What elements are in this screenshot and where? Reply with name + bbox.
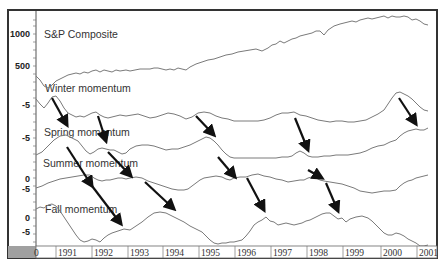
chart: 1000 500 -5 -5 0 -5 0 -5 S&P Composite W… xyxy=(0,0,445,269)
arrow-13 xyxy=(326,183,338,211)
panel-title-sp: S&P Composite xyxy=(44,28,118,40)
x-label-1994: 1994 xyxy=(165,248,184,258)
x-label-2001: 2001 xyxy=(419,248,438,258)
x-label-2000: 2000 xyxy=(383,248,402,258)
x-label-1995: 1995 xyxy=(201,248,220,258)
series-winter-momentum xyxy=(36,92,428,122)
x-label-1990: 0 xyxy=(34,248,39,258)
x-label-1999: 1999 xyxy=(345,248,364,258)
y-label-winter: -5 xyxy=(22,100,30,110)
arrow-4 xyxy=(295,118,308,150)
arrow-11 xyxy=(145,182,174,209)
arrow-9 xyxy=(308,170,322,178)
x-label-1993: 1993 xyxy=(130,248,149,258)
x-label-1992: 1992 xyxy=(94,248,113,258)
arrow-3 xyxy=(196,116,214,135)
arrow-5 xyxy=(399,98,416,124)
x-label-1991: 1991 xyxy=(58,248,77,258)
panel-title-winter: Winter momentum xyxy=(45,82,131,94)
panel-title-spring: Spring momentum xyxy=(44,126,130,138)
x-label-1996: 1996 xyxy=(237,248,256,258)
x-label-1998: 1998 xyxy=(309,248,328,258)
arrow-1 xyxy=(52,98,67,125)
y-label-fall-0: 0 xyxy=(25,213,30,223)
y-label-fall-m5: -5 xyxy=(22,227,30,237)
y-label-spring: -5 xyxy=(22,133,30,143)
x-label-1997: 1997 xyxy=(273,248,292,258)
arrow-8 xyxy=(218,157,235,177)
y-label-500: 500 xyxy=(15,61,30,71)
arrow-12 xyxy=(247,178,264,210)
y-label-summer-m5: -5 xyxy=(22,184,30,194)
axis-corner-block xyxy=(8,246,36,258)
series-sp-composite xyxy=(36,16,428,88)
y-label-summer-0: 0 xyxy=(25,174,30,184)
y-label-1000: 1000 xyxy=(10,29,30,39)
